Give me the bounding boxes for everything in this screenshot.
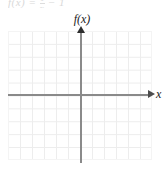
formula-left-part: f(x) = (8, 0, 36, 8)
x-axis-label: x (156, 88, 161, 101)
x-axis-arrow-icon (148, 90, 155, 98)
y-axis-label: f(x) (60, 13, 104, 26)
clipped-formula-text: f(x) = 1 x − 1 (8, 0, 160, 8)
y-axis-arrow-icon (77, 26, 85, 33)
y-axis-line (80, 32, 82, 163)
formula-right-part: − 1 (48, 0, 65, 8)
formula-fraction-denominator: x (40, 3, 45, 8)
formula-fraction: 1 x (40, 0, 45, 8)
coordinate-grid-figure: f(x) = 1 x − 1 f(x) x (0, 0, 167, 173)
